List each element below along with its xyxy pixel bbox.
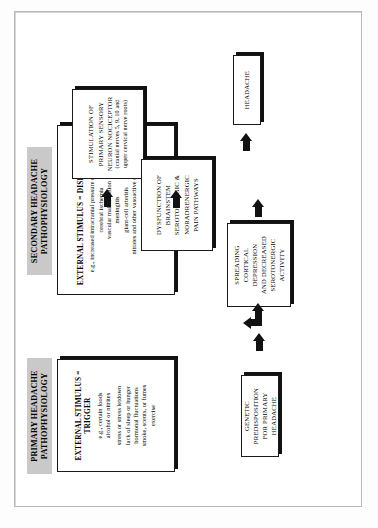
primary-stimulus-item: hormonal fluctuations <box>132 387 140 444</box>
banner-secondary-headache: SECONDARY HEADACHE PATHOPHYSIOLOGY <box>27 147 52 275</box>
arrow-head <box>252 303 264 311</box>
box-spreading-cortical-depression: SPREADING CORTICAL DEPRESSION AND DECREA… <box>227 223 291 307</box>
genetic-line: FOR PRIMARY HEADACHE <box>260 380 278 452</box>
banner-primary-line2: PATHOPHYSIOLOGY <box>40 373 50 459</box>
box-stimulation-primary-sensory-neuron: STIMULATION OF PRIMARY SENSORY NEURON NO… <box>72 89 144 179</box>
arrow-right-icon-secondary-to-stimulation <box>101 188 114 207</box>
arrow-head <box>101 189 113 197</box>
stimulation-line: STIMULATION OF <box>86 105 95 163</box>
primary-stimulus-item: alcohol or nitrites <box>104 393 112 438</box>
arrow-shaft <box>255 206 262 217</box>
figure-page: PRIMARY HEADACHE PATHOPHYSIOLOGY SECONDA… <box>0 0 378 528</box>
banner-secondary-line1: SECONDARY HEADACHE <box>30 159 40 263</box>
arrow-shaft <box>255 310 262 321</box>
arrow-head <box>252 199 264 207</box>
arrow-head <box>240 133 252 141</box>
stimulation-paren-line: (cranial nerves 5, 9, 10 and <box>114 100 122 169</box>
primary-stimulus-title: EXTERNAL STIMULUS = TRIGGER <box>75 364 92 467</box>
box-primary-external-stimulus: EXTERNAL STIMULUS = TRIGGER e.g., certai… <box>57 359 175 472</box>
primary-stimulus-item: smoke, scents, or fumes <box>140 385 148 446</box>
genetic-line: GENETIC PREDISPOSITION <box>242 380 260 452</box>
arrow-shaft <box>173 197 180 208</box>
spreading-line: SPREADING <box>232 245 241 284</box>
arrow-shaft <box>104 196 111 207</box>
spreading-line: ACTIVITY <box>277 248 286 281</box>
primary-stimulus-item: exercise <box>149 405 157 426</box>
banner-secondary-line2: PATHOPHYSIOLOGY <box>40 168 50 254</box>
arrow-right-icon-dysfunction-to-headache <box>240 132 253 151</box>
flowchart-stage: PRIMARY HEADACHE PATHOPHYSIOLOGY SECONDA… <box>15 0 363 481</box>
spreading-line: SEROTONERGIC <box>268 238 277 291</box>
stimulation-line: PRIMARY SENSORY <box>96 102 105 167</box>
arrow-head <box>170 190 182 198</box>
banner-primary-headache: PRIMARY HEADACHE PATHOPHYSIOLOGY <box>27 358 52 474</box>
banner-primary-line1: PRIMARY HEADACHE <box>30 370 40 462</box>
spreading-line: CORTICAL DEPRESSION <box>241 228 259 302</box>
arrow-head <box>243 317 251 329</box>
stimulation-line: NEURON NOCICEPTOR <box>105 97 114 172</box>
arrow-right-icon-stimulation-to-dysfunction <box>170 189 183 208</box>
primary-stimulus-subtitle: e.g., certain foods <box>96 393 104 439</box>
secondary-stimulus-item: giant-cell arteritis <box>122 187 130 233</box>
arrow-shaft <box>243 140 250 151</box>
headache-label: HEADACHE <box>242 71 251 109</box>
arrow-head <box>253 333 265 341</box>
box-genetic-predisposition: GENETIC PREDISPOSITION FOR PRIMARY HEADA… <box>241 375 279 457</box>
spreading-line: AND DECREASED <box>259 236 268 294</box>
secondary-stimulus-item: meningitis <box>113 196 121 223</box>
primary-stimulus-item: stress or stress letdown <box>115 386 123 445</box>
arrow-right-icon-primary-to-genetic <box>253 332 266 351</box>
arrow-right-icon-secondary-to-spreading <box>252 302 265 321</box>
arrow-shaft <box>256 340 263 351</box>
arrow-right-icon-spreading-to-dysfunction <box>252 198 265 217</box>
dysfunction-line: PAIN PATHWAYS <box>191 178 200 232</box>
box-headache-outcome: HEADACHE <box>233 55 261 125</box>
primary-stimulus-item: lack of sleep or hunger <box>124 386 132 445</box>
stimulation-paren-line: upper cervical nerve roots) <box>122 100 130 168</box>
